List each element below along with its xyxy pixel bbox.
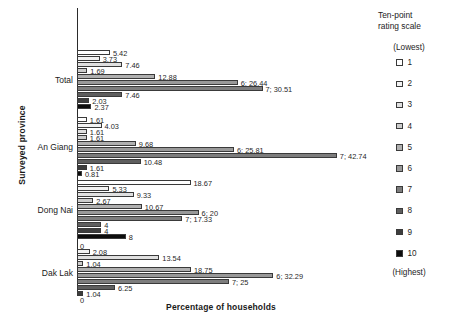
bar <box>77 68 87 73</box>
category-label: Total <box>55 75 73 85</box>
legend-title-line-1: Ten-point <box>378 10 451 21</box>
legend-title-line-2: rating scale <box>378 21 451 32</box>
bar-row: 8 <box>77 234 365 240</box>
bar <box>77 135 87 140</box>
category-label: Dong Nai <box>38 205 73 215</box>
bar-group: Total5.423.737.461.6912.886; 26.447; 30.… <box>77 50 365 110</box>
legend-label: 6 <box>408 164 413 173</box>
legend-swatch-icon <box>396 123 403 130</box>
legend-swatch-icon <box>396 229 403 236</box>
legend-title: Ten-point rating scale <box>378 10 451 32</box>
bar <box>77 249 90 254</box>
legend-label: 3 <box>408 100 413 109</box>
legend-label: 8 <box>408 206 413 215</box>
legend-swatch-icon <box>396 144 403 151</box>
bar <box>77 204 142 209</box>
legend-item-5[interactable]: 5 <box>378 137 451 158</box>
legend-label: 7 <box>408 185 413 194</box>
bar <box>77 98 89 103</box>
legend-item-3[interactable]: 3 <box>378 94 451 115</box>
bar <box>77 171 82 176</box>
bar <box>77 74 155 79</box>
bar-group: An Giang1.614.031.611.619.686; 25.817; 4… <box>77 117 365 177</box>
bar-chart-figure: Surveyed province Total5.423.737.461.691… <box>0 0 451 323</box>
legend-swatch-icon <box>396 165 403 172</box>
legend-swatch-icon <box>396 208 403 215</box>
bar <box>77 159 141 164</box>
bar <box>77 80 238 85</box>
category-label: An Giang <box>38 142 73 152</box>
legend-label: 10 <box>408 249 417 258</box>
bar <box>77 261 83 266</box>
legend: Ten-point rating scale (Lowest) 12345678… <box>378 10 451 277</box>
y-axis-title: Surveyed province <box>17 75 27 215</box>
bar <box>77 129 87 134</box>
legend-label: 4 <box>408 122 413 131</box>
bar <box>77 56 100 61</box>
bar <box>77 117 87 122</box>
legend-item-4[interactable]: 4 <box>378 116 451 137</box>
legend-item-1[interactable]: 1 <box>378 52 451 73</box>
category-label: Dak Lak <box>42 268 73 278</box>
bar-group: Dak Lak02.0813.541.0418.756; 32.297; 256… <box>77 243 365 303</box>
bar <box>77 216 182 221</box>
legend-highest-label: (Highest) <box>378 268 440 277</box>
legend-lowest-label: (Lowest) <box>378 43 440 52</box>
legend-item-2[interactable]: 2 <box>378 73 451 94</box>
bar-value-label: 8 <box>129 233 133 242</box>
bar-value-label: 2.37 <box>94 103 108 112</box>
legend-item-8[interactable]: 8 <box>378 200 451 221</box>
bar <box>77 147 234 152</box>
bar <box>77 86 263 91</box>
bar <box>77 180 191 185</box>
bar-row: 0.81 <box>77 171 365 177</box>
bar <box>77 104 91 109</box>
bar <box>77 279 229 284</box>
legend-swatch-icon <box>396 81 403 88</box>
legend-swatch-icon <box>396 186 403 193</box>
bar <box>77 267 191 272</box>
legend-label: 1 <box>408 58 413 67</box>
bar <box>77 210 199 215</box>
legend-item-9[interactable]: 9 <box>378 222 451 243</box>
x-axis-title: Percentage of households <box>77 302 365 312</box>
bar <box>77 234 126 239</box>
bar-group: Dong Nai18.675.339.332.6710.676; 207; 17… <box>77 180 365 240</box>
legend-swatch-icon <box>396 250 403 257</box>
bar-value-label: 0.81 <box>85 170 99 179</box>
bar <box>77 186 109 191</box>
bar-row: 2.37 <box>77 104 365 110</box>
bar <box>77 141 136 146</box>
legend-label: 2 <box>408 79 413 88</box>
legend-item-6[interactable]: 6 <box>378 158 451 179</box>
bar <box>77 228 101 233</box>
legend-items: 12345678910 <box>378 52 451 264</box>
bar <box>77 198 93 203</box>
legend-swatch-icon <box>396 102 403 109</box>
legend-item-7[interactable]: 7 <box>378 179 451 200</box>
legend-item-10[interactable]: 10 <box>378 243 451 264</box>
legend-label: 5 <box>408 143 413 152</box>
legend-swatch-icon <box>396 59 403 66</box>
bar <box>77 222 101 227</box>
legend-label: 9 <box>408 228 413 237</box>
bar <box>77 153 337 158</box>
